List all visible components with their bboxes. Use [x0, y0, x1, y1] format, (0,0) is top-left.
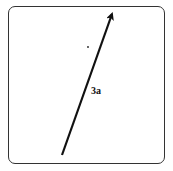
- point-dot: [87, 46, 89, 48]
- vector-arrow: [62, 14, 112, 155]
- vector-diagram: [0, 0, 173, 171]
- vector-label: 3a: [91, 85, 101, 96]
